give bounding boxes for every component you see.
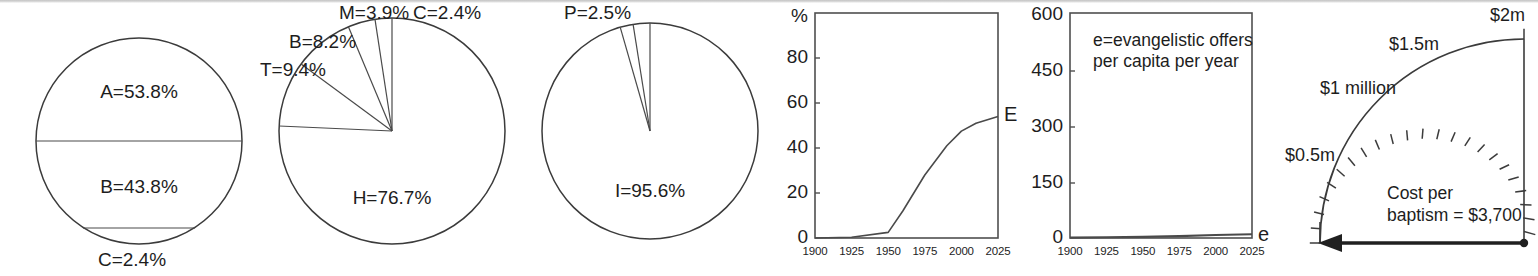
evangelized-pie-label-p: P=2.5%: [564, 2, 631, 23]
religions-pie-ray-c: [375, 19, 392, 131]
offers-line-xtick-1925: 1925: [1094, 245, 1119, 257]
percent-line-ylabel: %: [791, 5, 808, 26]
percent-line-series-label: E: [1004, 103, 1017, 125]
panel-offers-line: 600 450 300 150 0 1900 1925 1950 1975 20…: [1020, 0, 1290, 276]
cost-gauge-needle-head: [1318, 234, 1342, 252]
offers-line-xtick-2025: 2025: [1240, 245, 1265, 257]
evangelized-pie-ray-p: [633, 24, 650, 131]
cost-gauge-svg: $0.5m $1 million $1.5m $2m Cost per bapt…: [1290, 0, 1538, 276]
percent-line-xtick-2025: 2025: [986, 245, 1011, 257]
offers-line-xtick-1950: 1950: [1130, 245, 1155, 257]
percent-line-xtick-2000: 2000: [949, 245, 974, 257]
cost-gauge-hub: [1520, 239, 1528, 247]
offers-line-xtick-2000: 2000: [1203, 245, 1228, 257]
religions-pie-label-b: B=8.2%: [289, 31, 356, 52]
panel-percent-line: % 80 60 40 20 0 1900 1925 1950 1975 2000…: [770, 0, 1020, 276]
religions-pie-ray-t: [279, 126, 392, 131]
religions-pie-label-t: T=9.4%: [260, 59, 326, 80]
figure-strip: A=53.8% B=43.8% C=2.4% H=76.7% T=9.4% B=…: [0, 0, 1538, 276]
offers-line-xtick-1900: 1900: [1058, 245, 1083, 257]
cost-gauge-note-line1: Cost per: [1387, 183, 1453, 203]
cost-gauge-tick-label-2m: $2m: [1490, 5, 1525, 25]
offers-line-ytick-150: 150: [1031, 171, 1063, 192]
offers-line-series-e: [1070, 234, 1252, 237]
religions-pie-label-m: M=3.9%: [339, 2, 409, 23]
offers-line-ytick-450: 450: [1031, 59, 1063, 80]
percent-line-ytick-0: 0: [797, 226, 808, 247]
world-pie-label-c: C=2.4%: [98, 249, 166, 270]
religions-pie-label-h: H=76.7%: [353, 187, 432, 208]
cost-gauge-tick-label-1m: $1 million: [1320, 78, 1396, 98]
offers-line-series-label: e: [1258, 223, 1269, 245]
world-pie-label-a: A=53.8%: [100, 81, 178, 102]
offers-line-ytick-600: 600: [1031, 3, 1063, 24]
world-pie-label-b: B=43.8%: [100, 176, 178, 197]
offers-line-xtick-1975: 1975: [1167, 245, 1192, 257]
cost-gauge-note-line2: baptism = $3,700: [1387, 205, 1522, 225]
offers-line-ytick-0: 0: [1052, 226, 1063, 247]
cost-gauge-tick-label-05m: $0.5m: [1285, 145, 1335, 165]
percent-line-xtick-1975: 1975: [912, 245, 937, 257]
panel-religions-pie: H=76.7% T=9.4% B=8.2% M=3.9% C=2.4%: [265, 0, 520, 276]
panel-evangelized-pie: I=95.6% P=2.5%: [520, 0, 770, 276]
percent-line-xtick-1925: 1925: [839, 245, 864, 257]
percent-line-ytick-60: 60: [787, 91, 808, 112]
percent-line-ytick-20: 20: [787, 181, 808, 202]
religions-pie-label-c: C=2.4%: [413, 2, 481, 23]
percent-line-series-E: [815, 117, 998, 239]
evangelized-pie-ray-x: [620, 28, 650, 131]
offers-line-ytick-300: 300: [1031, 115, 1063, 136]
offers-line-svg: 600 450 300 150 0 1900 1925 1950 1975 20…: [1020, 0, 1290, 276]
offers-line-annotation-line1: e=evangelistic offers: [1093, 30, 1253, 50]
percent-line-xtick-1950: 1950: [876, 245, 901, 257]
evangelized-pie-svg: I=95.6% P=2.5%: [520, 0, 770, 276]
cost-gauge-tick-label-15m: $1.5m: [1389, 34, 1439, 54]
panel-cost-gauge: $0.5m $1 million $1.5m $2m Cost per bapt…: [1290, 0, 1538, 276]
percent-line-ytick-40: 40: [787, 136, 808, 157]
percent-line-xtick-1900: 1900: [803, 245, 828, 257]
offers-line-annotation-line2: per capita per year: [1093, 51, 1239, 71]
world-pie-svg: A=53.8% B=43.8% C=2.4%: [0, 0, 265, 276]
percent-line-ytick-80: 80: [787, 46, 808, 67]
panel-world-pie: A=53.8% B=43.8% C=2.4%: [0, 0, 265, 276]
evangelized-pie-label-i: I=95.6%: [615, 180, 685, 201]
religions-pie-svg: H=76.7% T=9.4% B=8.2% M=3.9% C=2.4%: [265, 0, 520, 276]
percent-line-svg: % 80 60 40 20 0 1900 1925 1950 1975 2000…: [770, 0, 1020, 276]
